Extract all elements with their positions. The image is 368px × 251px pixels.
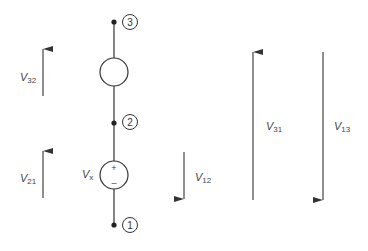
circuit-diagram: + – Vx 3 2 1 V32 V21 V12 V31 V13 <box>0 0 368 251</box>
svg-text:2: 2 <box>127 117 133 128</box>
source-vx: + – Vx <box>82 161 128 189</box>
svg-text:V12: V12 <box>195 171 212 185</box>
svg-text:3: 3 <box>127 17 133 28</box>
arrow-v12: V12 <box>184 152 212 199</box>
arrow-v32: V32 <box>20 49 43 96</box>
svg-text:V31: V31 <box>266 120 283 134</box>
arrow-v21: V21 <box>20 151 43 198</box>
node-3: 3 <box>111 15 137 30</box>
vx-label: Vx <box>82 168 93 182</box>
svg-text:V32: V32 <box>20 71 37 85</box>
node-2: 2 <box>111 115 137 130</box>
plus-sign: + <box>111 163 116 173</box>
arrow-v13: V13 <box>323 52 351 200</box>
node-1: 1 <box>111 218 137 233</box>
svg-text:1: 1 <box>127 220 133 231</box>
minus-sign: – <box>111 178 116 188</box>
svg-text:V13: V13 <box>334 120 351 134</box>
svg-text:V21: V21 <box>20 172 37 186</box>
arrow-v31: V31 <box>253 52 283 200</box>
element-top-circle <box>100 58 128 86</box>
